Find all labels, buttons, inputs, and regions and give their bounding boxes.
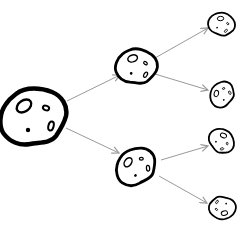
arrow-root-to-mid-bottom xyxy=(66,128,119,153)
asteroid-icon xyxy=(206,193,238,223)
asteroid-icon xyxy=(111,143,161,190)
arrow-root-to-mid-top xyxy=(67,75,120,101)
asteroid-icon xyxy=(205,8,239,41)
diagram-canvas xyxy=(0,0,252,234)
asteroid-icon xyxy=(0,89,66,145)
asteroid-icon xyxy=(205,77,240,111)
asteroid-icon xyxy=(112,44,161,88)
arrow-mid-bottom-to-leaf-4 xyxy=(159,176,207,203)
arrow-mid-top-to-leaf-1 xyxy=(155,28,208,58)
nodes xyxy=(0,8,239,223)
asteroid-icon xyxy=(205,124,238,158)
arrow-mid-bottom-to-leaf-3 xyxy=(161,146,208,160)
asteroid-split-diagram xyxy=(0,0,252,234)
arrow-mid-top-to-leaf-2 xyxy=(155,74,208,90)
